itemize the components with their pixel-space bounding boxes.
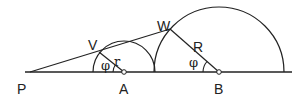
label-w: W (157, 18, 171, 34)
label-phi-a: φ (101, 58, 110, 73)
angle-arc-at-b (203, 62, 207, 73)
label-phi-b: φ (189, 55, 198, 70)
label-r: r (114, 54, 121, 69)
label-b: B (214, 81, 223, 97)
tangent-line-pw (30, 29, 170, 72)
center-point-a (122, 70, 127, 75)
label-a: A (119, 81, 129, 97)
center-point-b (217, 70, 222, 75)
label-v: V (88, 37, 98, 53)
large-semicircle (154, 7, 284, 72)
label-R: R (193, 39, 203, 55)
similar-circles-diagram: P A B V W R r φ φ (0, 0, 305, 99)
label-p: P (17, 81, 26, 97)
